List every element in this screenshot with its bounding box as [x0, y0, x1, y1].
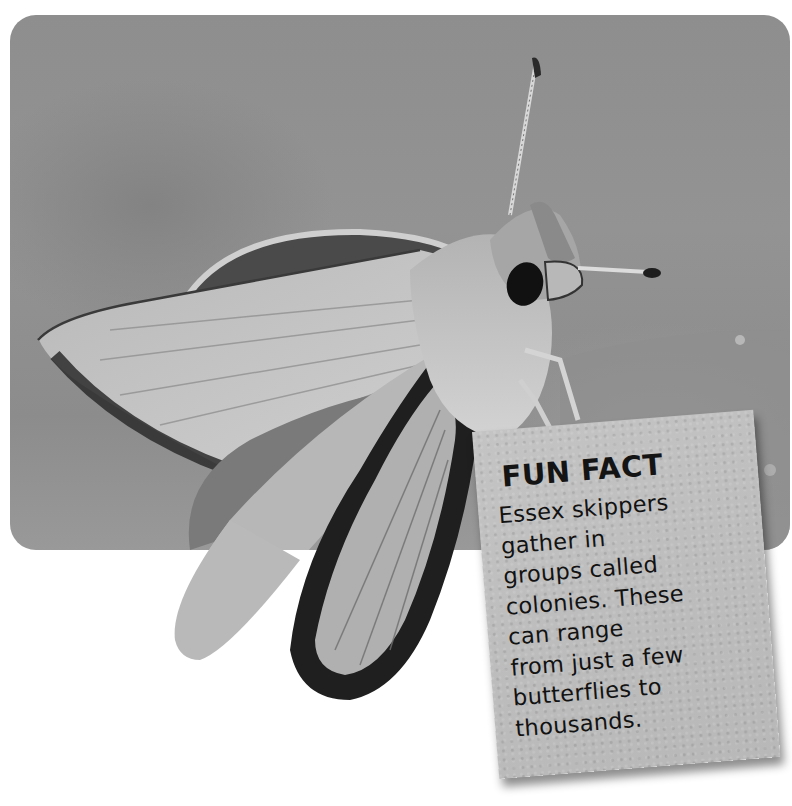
fun-fact-body: Essex skippers gather in groups called c…: [497, 480, 767, 743]
fun-fact-card: FUN FACT Essex skippers gather in groups…: [472, 410, 780, 779]
